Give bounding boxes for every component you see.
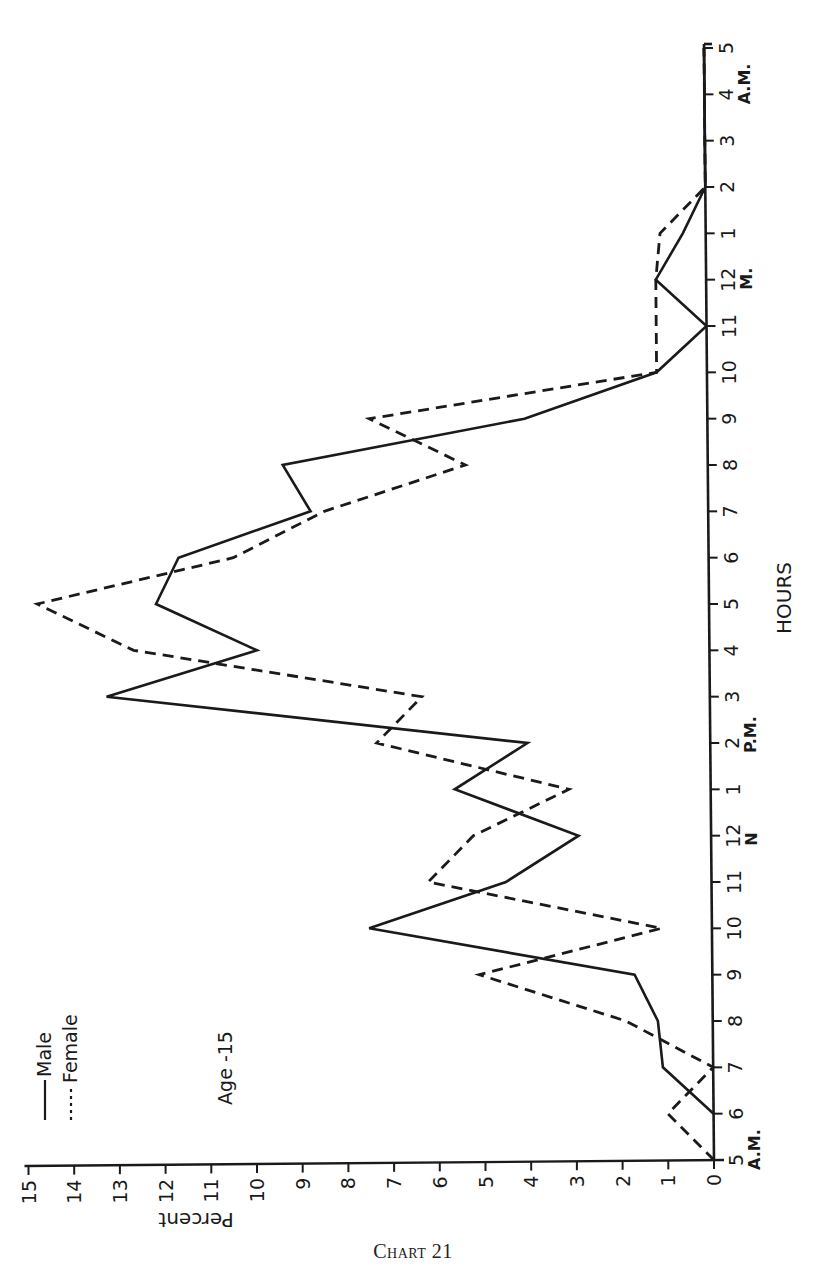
caption-text: Chart 21 [373, 1240, 453, 1262]
percent-tick-label: 10 [246, 1178, 268, 1202]
percent-tick-label: 7 [383, 1177, 405, 1189]
percent-tick-label: 8 [337, 1177, 359, 1189]
hour-tick-label: 5 [725, 1154, 747, 1166]
hour-tick-label: 3 [721, 691, 743, 703]
hour-tick-label: 6 [725, 1108, 747, 1120]
percent-tick-label: 3 [566, 1175, 588, 1187]
hour-tick-label: 7 [719, 505, 741, 517]
percent-tick-label: 13 [109, 1179, 131, 1203]
percent-tick-label: 0 [703, 1174, 725, 1186]
female-polyline [37, 48, 714, 1160]
hour-tick-label: 10 [723, 916, 745, 940]
series-female-line [37, 48, 714, 1160]
percent-axis-title: Percent [158, 1208, 233, 1232]
hour-tick-label: 4 [720, 644, 742, 656]
hour-tick-label: 11 [718, 314, 740, 338]
series-male-line [107, 48, 714, 1114]
percent-axis-ticks: 0123456789101112131415 [18, 1160, 726, 1204]
legend-female-label: Female [59, 1014, 81, 1083]
hour-tick-label: 7 [724, 1061, 746, 1073]
hour-tick-label: 12 [722, 824, 744, 848]
hour-tick-label: 10 [718, 360, 740, 384]
legend-male-label: Male [33, 1032, 55, 1077]
percent-tick-label: 15 [18, 1180, 40, 1204]
percent-tick-label: 12 [155, 1179, 177, 1203]
percent-tick-label: 6 [429, 1176, 451, 1188]
legend: Male Female [33, 1014, 81, 1120]
hour-period-label: A.M. [745, 1129, 764, 1170]
hour-period-label: N [742, 832, 761, 845]
hour-tick-label: 5 [720, 598, 742, 610]
hour-tick-label: 8 [719, 459, 741, 471]
hour-tick-label: 4 [715, 88, 737, 100]
hour-tick-label: 11 [723, 870, 745, 894]
axes [25, 44, 725, 1166]
percent-tick-label: 4 [520, 1176, 542, 1188]
male-polyline [107, 48, 714, 1114]
hour-tick-label: 8 [724, 1015, 746, 1027]
percent-tick-label: 9 [292, 1178, 314, 1190]
percent-tick-label: 14 [63, 1180, 85, 1204]
percent-tick-label: 5 [475, 1176, 497, 1188]
hour-tick-label: 1 [717, 227, 739, 239]
hour-period-label: P.M. [741, 716, 760, 753]
hour-tick-label: 2 [716, 181, 738, 193]
percent-axis-line [25, 1160, 725, 1166]
hour-period-label: M. [737, 268, 756, 290]
hours-axis-line [704, 44, 714, 1160]
hour-period-label: A.M. [735, 64, 754, 105]
hour-tick-label: 5 [715, 42, 737, 54]
hours-axis-title: HOURS [772, 562, 796, 634]
chart: 0123456789101112131415 56789101112123456… [0, 0, 826, 1282]
hour-tick-label: 9 [718, 413, 740, 425]
percent-tick-label: 1 [657, 1174, 679, 1186]
age-annotation: Age -15 [214, 1031, 236, 1105]
hour-tick-label: 12 [717, 268, 739, 292]
hour-tick-label: 2 [721, 737, 743, 749]
percent-tick-label: 2 [612, 1175, 634, 1187]
hour-tick-label: 6 [720, 552, 742, 564]
hour-tick-label: 9 [723, 969, 745, 981]
chart-caption: Chart 21 [0, 1240, 826, 1263]
hour-tick-label: 3 [716, 135, 738, 147]
hour-tick-label: 1 [722, 783, 744, 795]
percent-tick-label: 11 [200, 1178, 222, 1202]
